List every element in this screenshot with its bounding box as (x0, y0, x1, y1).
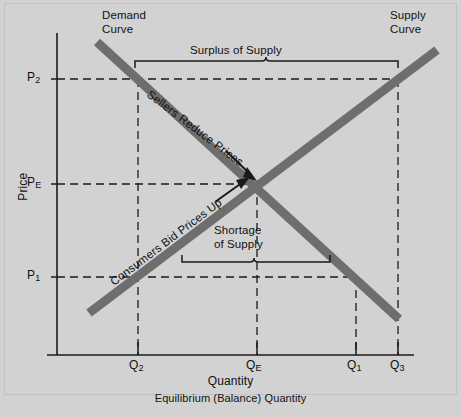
x-tick-label-qe: QE (246, 358, 262, 373)
x-tick-q1-sub: 1 (357, 363, 362, 373)
y-tick-p2-base: P (27, 70, 35, 84)
shortage-brace (182, 255, 330, 262)
shortage-label-line2: of Supply (214, 238, 263, 250)
y-tick-label-pe: PE (27, 175, 41, 190)
x-tick-qe-sub: E (256, 363, 262, 373)
y-tick-p2-sub: 2 (35, 75, 40, 85)
x-tick-q2-sub: 2 (139, 363, 144, 373)
y-tick-pe-sub: E (35, 180, 41, 190)
x-tick-q3-sub: 3 (400, 363, 405, 373)
demand-curve-label-line2: Curve (102, 23, 133, 35)
shortage-of-supply-label: Shortage of Supply (214, 224, 280, 251)
x-tick-qe-base: Q (246, 358, 256, 372)
surplus-brace (135, 57, 398, 68)
supply-curve-label-line1: Supply (390, 9, 426, 21)
x-tick-q3-base: Q (390, 358, 400, 372)
demand-curve-label-line1: Demand (102, 9, 146, 21)
y-tick-label-p2: P2 (27, 70, 40, 85)
supply-curve-label-line2: Curve (390, 23, 421, 35)
y-tick-p1-base: P (27, 268, 35, 282)
surplus-of-supply-label: Surplus of Supply (190, 44, 282, 58)
x-tick-q2-base: Q (129, 358, 139, 372)
x-tick-label-q2: Q2 (129, 358, 144, 373)
supply-curve-line (89, 50, 437, 313)
y-tick-pe-base: P (27, 175, 35, 189)
y-tick-label-p1: P1 (27, 268, 40, 283)
x-tick-q1-base: Q (347, 358, 357, 372)
x-tick-label-q1: Q1 (347, 358, 362, 373)
demand-curve-label: Demand Curve (102, 9, 172, 36)
figure-caption: Equilibrium (Balance) Quantity (0, 392, 461, 406)
y-tick-p1-sub: 1 (35, 273, 40, 283)
supply-demand-figure: Demand Curve Supply Curve Surplus of Sup… (0, 0, 461, 417)
shortage-label-line1: Shortage (214, 224, 261, 236)
chart-canvas (0, 0, 461, 417)
x-axis-title: Quantity (0, 375, 461, 389)
x-tick-label-q3: Q3 (390, 358, 405, 373)
supply-curve-label: Supply Curve (390, 9, 456, 36)
